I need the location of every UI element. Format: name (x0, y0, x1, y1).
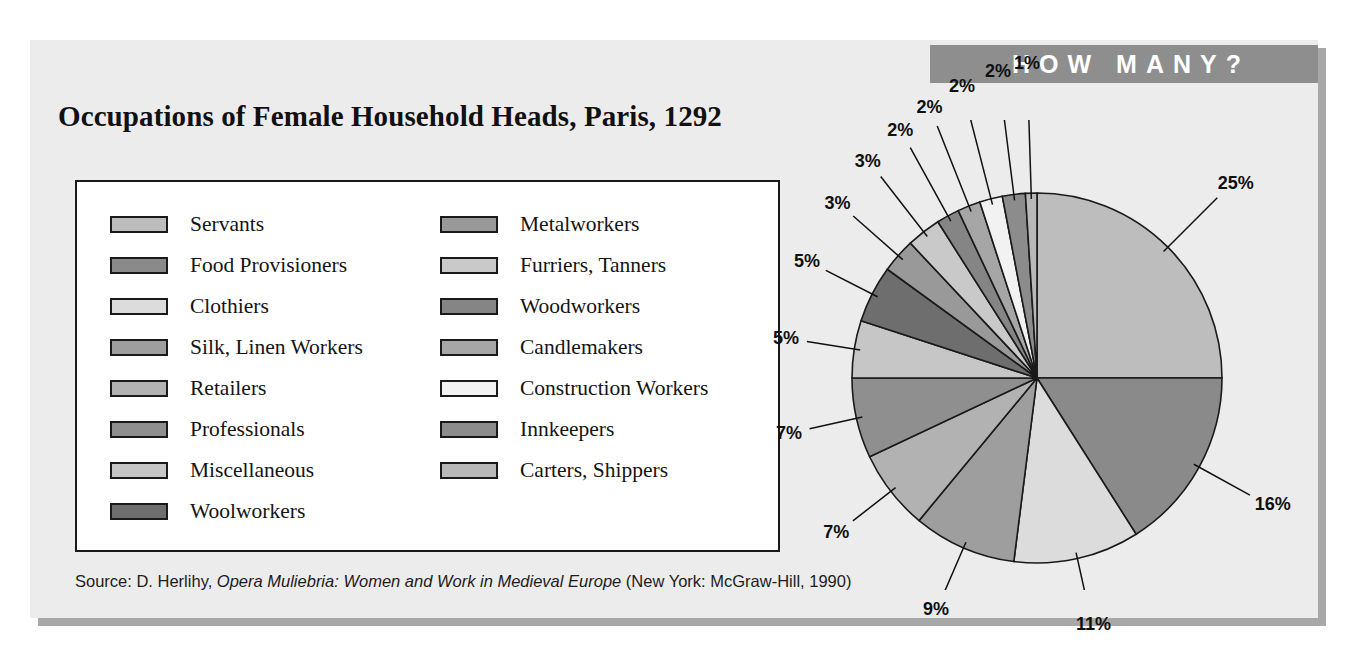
pie-leader-line (853, 488, 896, 521)
chart-title: Occupations of Female Household Heads, P… (58, 100, 722, 133)
legend-swatch-icon (440, 421, 498, 438)
legend-item-label: Clothiers (190, 294, 269, 319)
legend-item: Servants (110, 204, 363, 245)
legend-item: Candlemakers (440, 327, 708, 368)
legend-item: Metalworkers (440, 204, 708, 245)
figure-container: HOW MANY? Occupations of Female Househol… (0, 0, 1347, 667)
pie-leader-line (1194, 464, 1250, 495)
pie-slice-percent-label: 11% (1076, 614, 1111, 635)
pie-slice-percent-label: 5% (773, 328, 799, 349)
legend-item: Construction Workers (440, 368, 708, 409)
legend-swatch-icon (110, 216, 168, 233)
pie-slice-percent-label: 16% (1255, 494, 1291, 515)
pie-leader-line (881, 177, 928, 237)
legend-item-label: Carters, Shippers (520, 458, 668, 483)
legend-item: Carters, Shippers (440, 450, 708, 491)
legend-item: Retailers (110, 368, 363, 409)
legend-item-label: Metalworkers (520, 212, 639, 237)
legend-item: Silk, Linen Workers (110, 327, 363, 368)
legend-swatch-icon (110, 503, 168, 520)
pie-slice-percent-label: 2% (985, 61, 1011, 82)
legend-item-label: Miscellaneous (190, 458, 314, 483)
panel-shadow-right (1318, 48, 1326, 626)
pie-leader-line (1028, 120, 1032, 199)
pie-slice-percent-label: 2% (949, 76, 975, 97)
legend-item: Miscellaneous (110, 450, 363, 491)
legend-swatch-icon (440, 257, 498, 274)
legend-swatch-icon (440, 380, 498, 397)
pie-chart: 25%16%11%9%7%7%5%5%3%3%2%2%2%2%1% (790, 120, 1318, 590)
legend-box: ServantsFood ProvisionersClothiersSilk, … (75, 180, 780, 552)
legend-item-label: Woodworkers (520, 294, 640, 319)
pie-leader-line (910, 148, 950, 222)
legend-swatch-icon (110, 298, 168, 315)
legend-item-label: Furriers, Tanners (520, 253, 666, 278)
legend-item-label: Retailers (190, 376, 266, 401)
legend-column-left: ServantsFood ProvisionersClothiersSilk, … (110, 204, 363, 532)
legend-item: Furriers, Tanners (440, 245, 708, 286)
pie-leader-line (826, 270, 878, 296)
legend-swatch-icon (110, 380, 168, 397)
legend-swatch-icon (110, 257, 168, 274)
legend-swatch-icon (440, 298, 498, 315)
pie-slice-percent-label: 7% (776, 423, 802, 444)
legend-swatch-icon (110, 421, 168, 438)
pie-leader-line (944, 542, 965, 590)
legend-item: Clothiers (110, 286, 363, 327)
legend-item-label: Innkeepers (520, 417, 614, 442)
pie-leader-line (1076, 553, 1088, 590)
legend-swatch-icon (440, 216, 498, 233)
legend-item-label: Silk, Linen Workers (190, 335, 363, 360)
legend-swatch-icon (110, 339, 168, 356)
legend-item: Woodworkers (440, 286, 708, 327)
legend-item-label: Woolworkers (190, 499, 305, 524)
pie-slice-percent-label: 3% (855, 151, 881, 172)
pie-slice-percent-label: 1% (1014, 53, 1040, 74)
legend-item-label: Food Provisioners (190, 253, 347, 278)
source-citation: Source: D. Herlihy, Opera Muliebria: Wom… (75, 572, 851, 591)
pie-leader-line (853, 216, 903, 260)
pie-leader-line (967, 120, 992, 205)
pie-slice-percent-label: 5% (794, 251, 820, 272)
legend-item: Innkeepers (440, 409, 708, 450)
pie-leader-line (810, 417, 863, 429)
panel-shadow-bottom (38, 618, 1326, 626)
legend-swatch-icon (440, 462, 498, 479)
legend-column-right: MetalworkersFurriers, TannersWoodworkers… (440, 204, 708, 491)
pie-leader-line (937, 126, 971, 212)
pie-slice-percent-label: 25% (1218, 173, 1254, 194)
legend-item: Food Provisioners (110, 245, 363, 286)
source-prefix: Source: D. Herlihy, (75, 572, 217, 590)
pie-slice-percent-label: 9% (923, 599, 949, 620)
legend-item: Woolworkers (110, 491, 363, 532)
legend-item-label: Servants (190, 212, 264, 237)
legend-item-label: Candlemakers (520, 335, 643, 360)
pie-slice-percent-label: 2% (917, 97, 943, 118)
pie-slice-percent-label: 7% (823, 522, 849, 543)
legend-swatch-icon (110, 462, 168, 479)
legend-item-label: Professionals (190, 417, 305, 442)
pie-slice-percent-label: 3% (825, 193, 851, 214)
pie-leader-line (807, 342, 860, 350)
pie-slice-percent-label: 2% (887, 120, 913, 141)
pie-leader-line (1001, 120, 1015, 200)
legend-swatch-icon (440, 339, 498, 356)
legend-item-label: Construction Workers (520, 376, 708, 401)
pie-leader-line (1164, 198, 1218, 252)
legend-item: Professionals (110, 409, 363, 450)
source-title: Opera Muliebria: Women and Work in Medie… (217, 572, 621, 590)
